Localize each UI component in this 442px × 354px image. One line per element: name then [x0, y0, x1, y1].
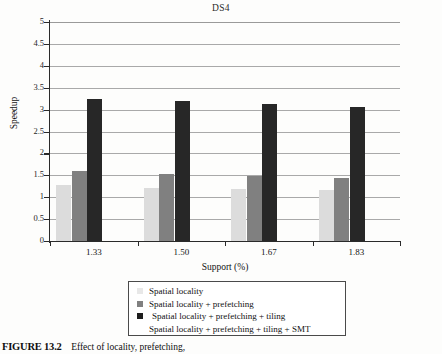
bar	[144, 188, 159, 241]
y-axis-tick-label: 4	[4, 60, 44, 70]
y-axis-tick	[44, 22, 50, 23]
legend-label: Spatial locality + prefetching + tiling	[149, 311, 285, 321]
x-axis-tick	[313, 241, 314, 246]
legend-label: Spatial locality + prefetching	[149, 299, 254, 309]
bar	[247, 176, 262, 241]
y-axis-tick	[44, 44, 50, 45]
y-axis-tick-label: 1	[4, 191, 44, 201]
legend-item[interactable]: Spatial locality + prefetching + tiling …	[133, 323, 341, 336]
caption-figure-number: FIGURE 13.2	[2, 341, 62, 352]
y-axis-tick	[44, 219, 50, 220]
bar	[334, 178, 349, 242]
legend-item[interactable]: Spatial locality + prefetching	[133, 298, 341, 311]
caption-text: Effect of locality, prefetching,	[71, 342, 185, 352]
x-axis-tick-label: 1.83	[326, 247, 386, 257]
x-axis-tick-label: 1.50	[151, 247, 211, 257]
bar	[56, 185, 71, 241]
bar	[72, 171, 87, 241]
chart-title: DS4	[0, 3, 442, 13]
legend-item[interactable]: Spatial locality + prefetching + tiling	[133, 310, 341, 323]
bar	[175, 101, 190, 241]
y-axis-tick	[44, 241, 50, 242]
legend-item[interactable]: Spatial locality	[133, 285, 341, 298]
y-axis-tick	[44, 197, 50, 198]
bar	[87, 99, 102, 241]
bar	[262, 104, 277, 241]
figure-container: DS4 00.511.522.533.544.55 1.331.501.671.…	[0, 0, 442, 354]
bar-series-group	[50, 22, 400, 241]
bar	[350, 107, 365, 241]
y-axis-tick	[44, 66, 50, 67]
legend-swatch	[137, 301, 143, 307]
y-axis-tick-label: 0.5	[4, 213, 44, 223]
x-axis-tick	[225, 241, 226, 246]
plot-area	[50, 22, 400, 241]
x-axis-tick	[138, 241, 139, 246]
x-axis-title: Support (%)	[50, 262, 400, 272]
bar	[159, 174, 174, 241]
x-axis-tick-label: 1.33	[64, 247, 124, 257]
y-axis-title: Speedup	[9, 78, 19, 148]
y-axis-tick-label: 2	[4, 147, 44, 157]
bar	[319, 190, 334, 241]
y-axis-tick	[44, 153, 50, 154]
y-axis-tick-labels: 00.511.522.533.544.55	[0, 0, 44, 354]
bar	[231, 189, 246, 241]
figure-caption: FIGURE 13.2 Effect of locality, prefetch…	[2, 341, 442, 352]
legend-swatch	[137, 326, 143, 332]
x-axis-tick	[400, 241, 401, 246]
y-axis-tick	[44, 110, 50, 111]
y-axis-tick-label: 4.5	[4, 38, 44, 48]
y-axis-tick	[44, 88, 50, 89]
legend-swatch	[137, 313, 143, 319]
y-axis-tick-label: 0	[4, 235, 44, 245]
y-axis-tick-label: 5	[4, 16, 44, 26]
legend-swatch	[137, 288, 143, 294]
legend-label: Spatial locality	[149, 286, 203, 296]
x-axis-tick-label: 1.67	[239, 247, 299, 257]
y-axis-tick	[44, 175, 50, 176]
legend-label: Spatial locality + prefetching + tiling …	[149, 324, 310, 334]
y-axis-tick	[44, 132, 50, 133]
x-axis-tick	[50, 241, 51, 246]
legend: Spatial localitySpatial locality + prefe…	[128, 281, 346, 336]
y-axis-tick-label: 1.5	[4, 169, 44, 179]
